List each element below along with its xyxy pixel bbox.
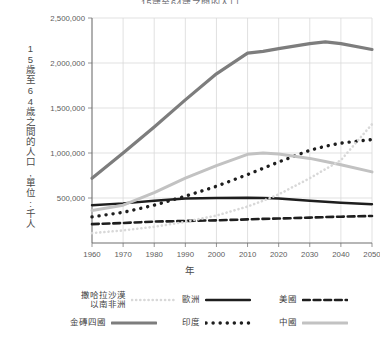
legend-item-europe[interactable]: 歐洲	[182, 295, 279, 305]
chart-legend: 撒哈拉沙漠 以南非洲 歐洲 美國 金磚四國 印度 中國	[70, 288, 376, 338]
legend-swatch-bric	[111, 318, 157, 328]
legend-swatch-india	[205, 318, 251, 328]
y-tick-label: 1,500,000	[50, 104, 85, 113]
x-tick-label: 2040	[332, 250, 350, 259]
legend-item-india[interactable]: 印度	[182, 318, 279, 328]
legend-item-bric[interactable]: 金磚四國	[70, 318, 182, 328]
x-tick-label: 2010	[239, 250, 257, 259]
series-line-bric	[92, 42, 372, 178]
x-tick-label: 2020	[270, 250, 288, 259]
legend-item-usa[interactable]: 美國	[279, 295, 376, 305]
legend-label-india: 印度	[182, 318, 200, 328]
x-axis-title: 年	[0, 263, 380, 277]
chart-page: 15歲至64歲之間的人口 15歲至64歲之間的人口,單位:千人 500,0001…	[0, 0, 380, 346]
x-tick-label: 2030	[301, 250, 319, 259]
legend-swatch-usa	[302, 295, 348, 305]
x-tick-label: 1970	[114, 250, 132, 259]
y-tick-label: 2,500,000	[50, 14, 85, 23]
line-chart-svg: 500,0001,000,0001,500,0002,000,0002,500,…	[0, 0, 380, 280]
legend-label-bric: 金磚四國	[70, 318, 106, 328]
y-tick-label: 1,000,000	[50, 149, 85, 158]
x-tick-label: 1990	[177, 250, 195, 259]
series-line-usa	[92, 216, 372, 224]
x-tick-label: 2000	[208, 250, 226, 259]
legend-swatch-china	[302, 318, 348, 328]
legend-label-china: 中國	[279, 318, 297, 328]
x-tick-label: 2050	[363, 250, 380, 259]
plot-area: 500,0001,000,0001,500,0002,000,0002,500,…	[0, 0, 380, 280]
legend-label-africa: 撒哈拉沙漠 以南非洲	[70, 291, 126, 310]
legend-item-china[interactable]: 中國	[279, 318, 376, 328]
y-tick-label: 2,000,000	[50, 59, 85, 68]
y-tick-label: 500,000	[57, 194, 86, 203]
series-line-india	[92, 140, 372, 217]
legend-swatch-europe	[205, 295, 251, 305]
x-tick-label: 1960	[83, 250, 101, 259]
legend-label-europe: 歐洲	[182, 295, 200, 305]
x-tick-label: 1980	[146, 250, 164, 259]
legend-item-africa[interactable]: 撒哈拉沙漠 以南非洲	[70, 291, 182, 310]
legend-label-usa: 美國	[279, 295, 297, 305]
legend-swatch-africa	[131, 295, 177, 305]
